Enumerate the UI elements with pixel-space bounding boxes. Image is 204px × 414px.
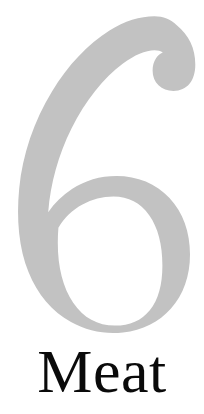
- numeral-six-glyph: 6: [0, 0, 204, 340]
- chapter-title-text: Meat: [37, 340, 166, 402]
- chapter-title: Meat: [0, 340, 204, 414]
- numeral-six-path: [18, 16, 195, 333]
- chapter-opening-page: 6 Meat: [0, 0, 204, 414]
- chapter-number: 6: [0, 0, 204, 340]
